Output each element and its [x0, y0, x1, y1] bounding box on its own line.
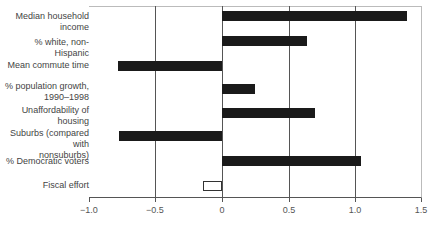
x-tick [155, 198, 156, 202]
x-tick-label: −1.0 [80, 205, 98, 215]
category-label: % white, non-Hispanic [0, 37, 89, 59]
zero-line [222, 6, 223, 198]
x-tick [421, 198, 422, 202]
bar [222, 11, 407, 21]
category-label: Median household income [15, 11, 89, 33]
bar [222, 108, 315, 118]
x-tick-label: 1.0 [349, 205, 362, 215]
category-label: Mean commute time [7, 60, 89, 71]
category-label: % population growth, 1990–1998 [5, 81, 89, 103]
category-label: Fiscal effort [43, 180, 89, 191]
bar [222, 156, 361, 166]
x-tick-label: 1.5 [415, 205, 428, 215]
gridline-1-0 [355, 6, 356, 198]
bar [118, 61, 222, 71]
gridline-0-5 [289, 6, 290, 198]
bar [203, 181, 222, 191]
category-label: % Democratic voters [6, 156, 89, 167]
x-tick-label: 0 [219, 205, 224, 215]
bar [222, 36, 307, 46]
plot-area [89, 6, 422, 198]
gridline-neg-0-5 [155, 6, 156, 198]
x-tick-label: −0.5 [146, 205, 164, 215]
x-tick-label: 0.5 [283, 205, 296, 215]
bar [119, 131, 222, 141]
x-tick [289, 198, 290, 202]
category-label: Unaffordability of housing [22, 105, 89, 127]
bar [222, 84, 255, 94]
x-tick [222, 198, 223, 202]
x-tick [355, 198, 356, 202]
x-tick [89, 198, 90, 202]
